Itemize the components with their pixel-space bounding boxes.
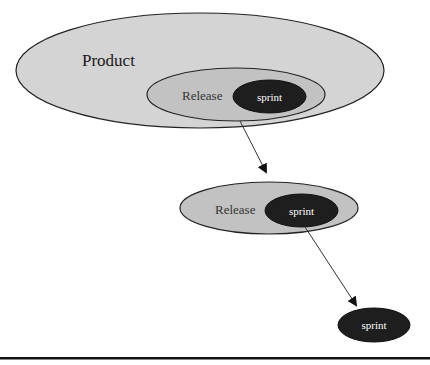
sprint-nested-node: sprint	[233, 80, 306, 113]
sprint-standalone-label: sprint	[361, 319, 386, 331]
bottom-divider	[0, 357, 430, 360]
arrow-sprint-to-sprint	[305, 227, 356, 305]
arrow-release-to-release	[240, 121, 266, 172]
sprint-nested-label: sprint	[257, 91, 282, 103]
sprint-in-release-node: sprint	[265, 194, 338, 227]
release-nested-label: Release	[182, 88, 223, 103]
sprint-in-release-label: sprint	[289, 205, 314, 217]
sprint-standalone-node: sprint	[338, 308, 410, 342]
decomposition-diagram: Product Release sprint Release sprint sp…	[0, 0, 430, 365]
product-label: Product	[82, 51, 135, 70]
release-standalone-label: Release	[215, 202, 256, 217]
